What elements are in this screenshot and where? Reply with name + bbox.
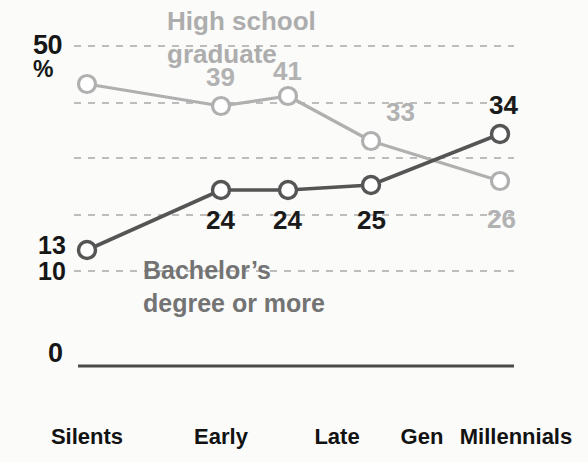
data-label-high-school-4: 33 (386, 99, 415, 125)
chart-container: 50 % 13 10 0 High school graduate Bachel… (0, 0, 588, 462)
series-bachelors-marker (363, 177, 380, 194)
series-high-school-marker (213, 98, 230, 115)
x-axis-category-millennials-line1: Millennials (444, 424, 588, 451)
series-high-school-marker (79, 76, 96, 93)
series-bachelors-degree (79, 126, 509, 259)
series-high-school-marker (280, 88, 297, 105)
x-axis-category-silents: Silents (1965) (22, 380, 152, 462)
series-annotation-bachelors-line2: degree or more (143, 291, 325, 316)
x-axis-category-silents-line1: Silents (22, 424, 152, 451)
series-high-school-graduate (79, 76, 509, 190)
x-axis-category-millennials: Millennials (2013) (444, 380, 588, 462)
series-annotation-bachelors-line1: Bachelor’s (143, 258, 271, 283)
data-label-bachelors-1: 13 (38, 233, 66, 258)
y-axis-tick-0: 0 (48, 340, 63, 367)
series-annotation-high-school-line1: High school (167, 8, 316, 34)
x-axis-category-late-boomers-line1: Late (281, 424, 393, 451)
data-label-bachelors-5: 34 (489, 92, 518, 118)
series-bachelors-marker (213, 182, 230, 199)
data-label-bachelors-3: 24 (273, 207, 302, 233)
data-label-high-school-5: 26 (487, 206, 516, 232)
data-label-high-school-2: 39 (206, 64, 235, 90)
data-label-high-school-3: 41 (273, 58, 302, 84)
x-axis-category-early-boomers-line1: Early (160, 424, 282, 451)
y-axis-tick-50: 50 (33, 32, 62, 59)
series-bachelors-marker (79, 242, 96, 259)
series-high-school-marker (492, 173, 509, 190)
data-label-bachelors-4: 25 (357, 207, 386, 233)
series-bachelors-marker (492, 126, 509, 143)
x-axis-category-early-boomers: Early Boomers (1979) (160, 380, 282, 462)
x-axis-category-late-boomers: Late Boomers (1986) (281, 380, 393, 462)
series-bachelors-marker (280, 182, 297, 199)
data-label-bachelors-2: 24 (206, 207, 235, 233)
series-high-school-marker (363, 133, 380, 150)
y-axis-tick-10: 10 (38, 259, 66, 284)
y-axis-unit-percent: % (33, 58, 53, 81)
